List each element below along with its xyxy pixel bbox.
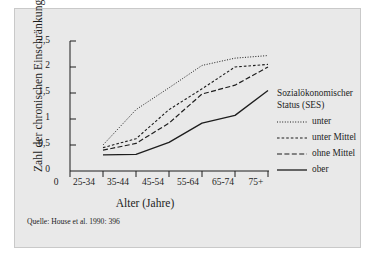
legend-item-ober: ober [277,163,367,175]
plot-area [56,39,270,171]
legend-line-dotted-icon [277,118,307,125]
chart-svg [56,39,270,179]
y-tick-label: 0,5 [20,138,50,148]
x-tick-marks [70,171,268,177]
legend: Sozialökonomischer Status (SES) unter un… [277,87,367,175]
legend-line-solid-icon [277,166,307,173]
legend-line-dashed-icon [277,134,307,141]
y-tick-marks [70,41,76,145]
legend-title-line-1: Sozialökonomischer [277,87,367,99]
legend-line-long-dashed-icon [277,150,307,157]
legend-item-ohne-mittel: ohne Mittel [277,147,367,159]
legend-label: unter [312,115,331,127]
legend-label: unter Mittel [312,131,356,143]
source-note: Quelle: House et al. 1990: 396 [27,217,120,226]
legend-item-unter-mittel: unter Mittel [277,131,367,143]
x-axis-title: Alter (Jahre) [15,197,275,209]
y-tick-label: 0 [20,164,50,174]
figure-panel: Zahl der chronischen Einschränkungen Alt… [14,8,361,248]
legend-label: ober [312,163,329,175]
y-tick-label: 1,5 [20,86,50,96]
legend-title-line-2: Status (SES) [277,99,367,111]
y-tick-label: 2 [20,60,50,70]
data-series-layer [103,56,268,155]
legend-item-unter: unter [277,115,367,127]
series-line-unter [103,56,268,145]
y-tick-label: 1 [20,112,50,122]
series-line-unter-mittel [103,64,268,147]
y-tick-label: 2,5 [20,35,50,45]
legend-label: ohne Mittel [312,147,355,159]
